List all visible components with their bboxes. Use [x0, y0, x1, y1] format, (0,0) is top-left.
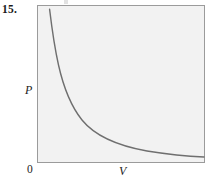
problem-number-label: 15. — [2, 3, 17, 16]
x-axis-label: V — [119, 165, 126, 178]
figure-container: 15. P V 0 — [0, 0, 212, 182]
origin-label: 0 — [27, 163, 33, 176]
hyperbola-curve — [50, 9, 204, 157]
y-axis-label: P — [25, 84, 32, 97]
plot-curve-svg — [37, 5, 205, 163]
scan-artifact — [64, 0, 68, 4]
